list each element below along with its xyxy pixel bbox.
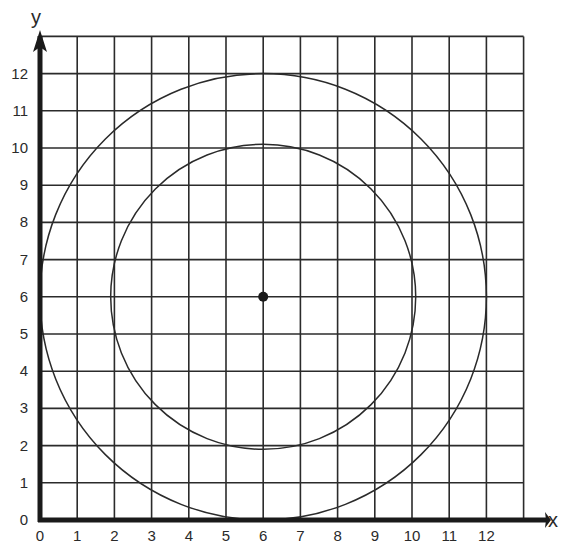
y-tick-labels: 0123456789101112: [11, 65, 28, 528]
x-tick-label: 2: [110, 527, 118, 544]
x-tick-label: 7: [296, 527, 304, 544]
diagram-canvas: 0123456789101112 0123456789101112 x y: [0, 0, 572, 558]
center-point: [258, 292, 268, 302]
x-tick-label: 11: [441, 527, 457, 544]
y-tick-label: 4: [20, 362, 28, 379]
y-axis-label: y: [31, 6, 41, 28]
y-tick-label: 8: [20, 213, 28, 230]
y-tick-label: 5: [20, 325, 28, 342]
y-tick-label: 9: [20, 176, 28, 193]
x-tick-label: 1: [73, 527, 81, 544]
coordinate-diagram: 0123456789101112 0123456789101112 x y: [0, 0, 572, 558]
y-tick-label: 6: [20, 288, 28, 305]
x-tick-label: 0: [36, 527, 44, 544]
x-tick-label: 8: [333, 527, 341, 544]
x-tick-label: 12: [478, 527, 495, 544]
y-tick-label: 2: [20, 437, 28, 454]
x-tick-label: 6: [259, 527, 267, 544]
x-tick-label: 9: [371, 527, 379, 544]
y-tick-label: 12: [11, 65, 28, 82]
x-tick-labels: 0123456789101112: [36, 527, 495, 544]
y-tick-label: 7: [20, 251, 28, 268]
x-tick-label: 5: [222, 527, 230, 544]
axes: [33, 30, 551, 528]
y-tick-label: 3: [20, 399, 28, 416]
x-tick-label: 3: [147, 527, 155, 544]
y-tick-label: 11: [12, 102, 28, 119]
x-tick-label: 10: [404, 527, 421, 544]
x-axis-label: x: [548, 509, 558, 531]
y-tick-label: 10: [11, 139, 28, 156]
y-tick-label: 1: [20, 474, 28, 491]
y-tick-label: 0: [20, 511, 28, 528]
x-tick-label: 4: [185, 527, 193, 544]
